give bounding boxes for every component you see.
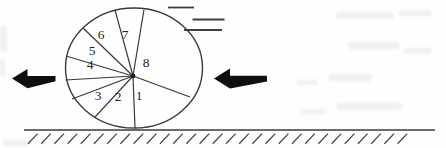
ground-hatch-mark (371, 134, 381, 144)
ground-hatch-mark (28, 134, 38, 144)
ground-hatch-mark (345, 134, 355, 144)
scan-noise-blob (0, 26, 7, 52)
sector-label-8: 8 (143, 55, 150, 70)
ground-hatch-mark (147, 134, 157, 144)
ground-hatch-mark (134, 134, 144, 144)
sector-label-1: 1 (136, 88, 143, 103)
ground-hatch-mark (318, 134, 328, 144)
ground-hatch-mark (173, 134, 183, 144)
scan-noise-blob (2, 140, 28, 146)
ground-hatch-mark (292, 134, 302, 144)
scan-noise-blob (300, 109, 326, 114)
ground-hatch-mark (54, 134, 64, 144)
ground-hatch-mark (81, 134, 91, 144)
figure-canvas: 1 2 3 4 5 6 7 8 (0, 0, 446, 148)
ground-hatch-mark (200, 134, 210, 144)
sector-label-2: 2 (115, 89, 122, 104)
scan-noise-blob (404, 48, 432, 54)
scan-noise-blob (336, 103, 402, 110)
ground-hatch-mark (186, 134, 196, 144)
sector-label-3: 3 (95, 88, 102, 103)
ground-hatch-mark (279, 134, 289, 144)
ground-hatch-mark (252, 134, 262, 144)
scan-noise-blob (336, 12, 394, 19)
ground-hatch-mark (68, 134, 78, 144)
ground-hatch-mark (226, 134, 236, 144)
ground-hatching (28, 134, 407, 144)
ground-hatch-mark (41, 134, 51, 144)
scan-noise-blob (0, 58, 5, 76)
ground-hatch-mark (94, 134, 104, 144)
sector-label-6: 6 (98, 27, 105, 42)
scan-noise-blob (348, 42, 400, 49)
ground-hatch-mark (266, 134, 276, 144)
sector-label-7: 7 (122, 27, 129, 42)
ground-hatch-mark (358, 134, 368, 144)
ground-hatch-mark (332, 134, 342, 144)
physics-wheel-figure: 1 2 3 4 5 6 7 8 (0, 0, 446, 148)
scan-noise-blob (398, 10, 432, 16)
ground-hatch-mark (398, 134, 408, 144)
left-force-arrow-icon (12, 69, 56, 88)
scan-noise-blob (296, 80, 318, 85)
ground-hatch-mark (160, 134, 170, 144)
sector-label-4: 4 (87, 57, 94, 72)
ground-hatch-mark (107, 134, 117, 144)
motion-lines-icon (168, 8, 225, 31)
wheel-spoke (115, 10, 133, 76)
ground-hatch-mark (384, 134, 394, 144)
scan-noise-blob (328, 74, 372, 81)
right-force-arrow-icon (214, 69, 267, 89)
ground-hatch-mark (120, 134, 130, 144)
wheel-hub-axle-dot-icon (131, 74, 136, 79)
ground-hatch-mark (239, 134, 249, 144)
sector-label-5: 5 (89, 43, 96, 58)
ground-hatch-mark (305, 134, 315, 144)
ground-hatch-mark (213, 134, 223, 144)
